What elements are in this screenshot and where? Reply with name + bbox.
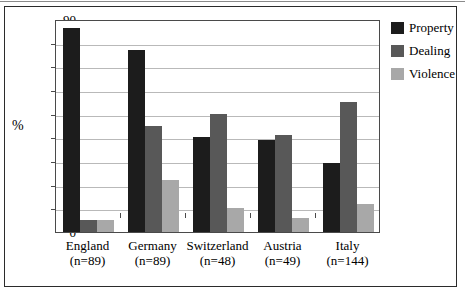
legend-label: Violence [409,66,455,81]
legend-label: Dealing [409,43,450,58]
bar-switzerland-property[interactable] [193,137,210,232]
plot-inner [56,21,379,232]
bar-group [186,21,251,232]
bar-england-property[interactable] [63,28,80,232]
bar-england-violence[interactable] [97,220,114,232]
bar-austria-dealing[interactable] [275,135,292,232]
x-label-name: Austria [263,238,301,253]
x-label-name: Italy [336,238,360,253]
bar-england-dealing[interactable] [80,220,97,232]
bar-germany-property[interactable] [128,50,145,232]
bar-group [316,21,381,232]
x-label-name: Switzerland [186,238,248,253]
category-separator [185,213,186,218]
legend-item-property[interactable]: Property [391,19,453,42]
category-separator [120,213,121,218]
bar-switzerland-dealing[interactable] [210,114,227,232]
category-separator [250,213,251,218]
bar-group [251,21,316,232]
x-label-name: England [66,238,109,253]
x-label-name: Germany [128,238,176,253]
legend-item-violence[interactable]: Violence [391,65,453,88]
y-axis-title: % [12,118,24,134]
legend-label: Property [409,20,454,35]
x-axis-label-italy: Italy(n=144) [308,238,388,268]
bar-switzerland-violence[interactable] [227,208,244,232]
bar-austria-property[interactable] [258,140,275,232]
bar-italy-dealing[interactable] [340,102,357,232]
bar-germany-violence[interactable] [162,180,179,232]
legend: PropertyDealingViolence [391,19,453,88]
legend-swatch-dealing [391,45,404,57]
plot-area [55,20,380,233]
page-rule [0,1,465,2]
legend-swatch-property [391,22,404,34]
bar-chart-figure: % 9080706050403020100 England(n=89)Germa… [0,0,465,294]
bar-italy-violence[interactable] [357,204,374,232]
legend-item-dealing[interactable]: Dealing [391,42,453,65]
bar-group [121,21,186,232]
bar-germany-dealing[interactable] [145,126,162,233]
bar-italy-property[interactable] [323,163,340,232]
legend-swatch-violence [391,68,404,80]
bar-group [56,21,121,232]
bar-austria-violence[interactable] [292,218,309,232]
x-label-sample-size: (n=144) [308,253,388,268]
category-separator [315,213,316,218]
